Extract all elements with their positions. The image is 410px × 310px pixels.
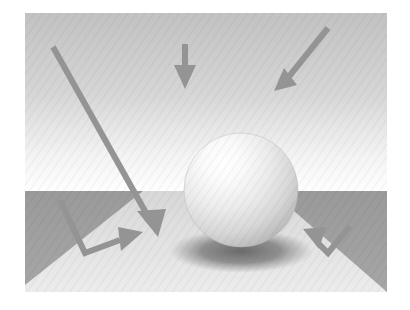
- figure-canvas: Light rays incident on a sphere resting …: [25, 13, 387, 292]
- sphere: [184, 133, 298, 247]
- scene-svg: Light rays incident on a sphere resting …: [25, 13, 387, 292]
- illustration-stage: Light rays incident on a sphere resting …: [0, 0, 410, 310]
